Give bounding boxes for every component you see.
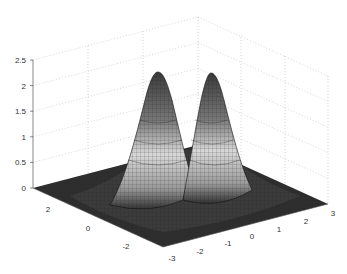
surface-plot: 0 0.5 1 1.5 2 2.5 2 0 -2 -3 -2 -1 0 1: [0, 0, 347, 274]
y-tick-label: 0: [86, 224, 91, 233]
y-tick-label: 2: [46, 205, 51, 214]
x-tick-label: 3: [331, 209, 336, 218]
z-tick-label: 0.5: [15, 158, 27, 167]
x-tick-label: 1: [277, 225, 282, 234]
z-axis: 0 0.5 1 1.5 2 2.5: [15, 56, 33, 193]
z-tick-label: 2.5: [15, 56, 27, 65]
x-tick-label: 0: [250, 232, 255, 241]
z-tick-label: 1.5: [15, 107, 27, 116]
x-tick-label: 2: [304, 217, 309, 226]
z-tick-label: 1: [22, 133, 27, 142]
y-tick-label: -2: [122, 242, 130, 251]
z-tick-label: 2: [22, 82, 27, 91]
x-tick-label: -1: [224, 239, 232, 248]
x-tick-label: -3: [168, 254, 176, 263]
z-tick-label: 0: [22, 184, 27, 193]
x-tick-label: -2: [196, 247, 204, 256]
